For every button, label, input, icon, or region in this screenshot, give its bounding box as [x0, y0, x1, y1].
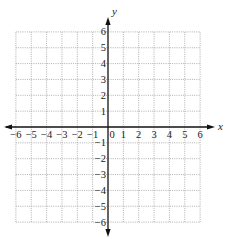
x-tick-label: −6 — [10, 129, 21, 140]
x-tick-labels: −6−5−4−3−2−10123456 — [10, 129, 202, 140]
y-tick-label: −4 — [95, 185, 107, 196]
x-tick-label: −2 — [72, 129, 83, 140]
x-tick-label: 2 — [136, 129, 141, 140]
y-tick-label: 6 — [101, 26, 106, 37]
y-axis-up-arrow-icon — [105, 17, 110, 25]
y-tick-label: −6 — [95, 217, 106, 228]
axes — [4, 17, 215, 237]
x-tick-label: 6 — [197, 129, 202, 140]
x-tick-label: 1 — [121, 129, 126, 140]
y-tick-label: 5 — [101, 42, 106, 53]
y-axis-down-arrow-icon — [105, 229, 110, 237]
coordinate-plane: −6−5−4−3−2−10123456 −6−5−4−3−2−1123456 x… — [0, 0, 232, 240]
y-tick-label: −1 — [95, 137, 106, 148]
x-tick-label: −4 — [41, 129, 53, 140]
y-tick-label: 2 — [101, 90, 106, 101]
y-tick-label: −3 — [95, 169, 106, 180]
x-tick-label: 0 — [109, 129, 114, 140]
x-tick-label: 3 — [151, 129, 156, 140]
y-tick-label: 4 — [101, 58, 107, 69]
x-axis-label: x — [217, 120, 223, 132]
y-tick-label: 3 — [101, 74, 106, 85]
x-tick-label: −3 — [56, 129, 67, 140]
x-tick-label: −5 — [26, 129, 37, 140]
x-tick-label: 5 — [182, 129, 187, 140]
y-axis-label: y — [111, 5, 117, 17]
y-tick-label: 1 — [101, 106, 106, 117]
x-axis-right-arrow-icon — [207, 124, 215, 129]
y-tick-label: −2 — [95, 153, 106, 164]
y-tick-label: −5 — [95, 201, 106, 212]
x-tick-label: 4 — [167, 129, 173, 140]
